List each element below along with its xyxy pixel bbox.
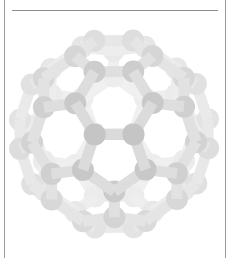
carbon-atom bbox=[123, 123, 145, 145]
carbon-atom bbox=[84, 124, 106, 146]
